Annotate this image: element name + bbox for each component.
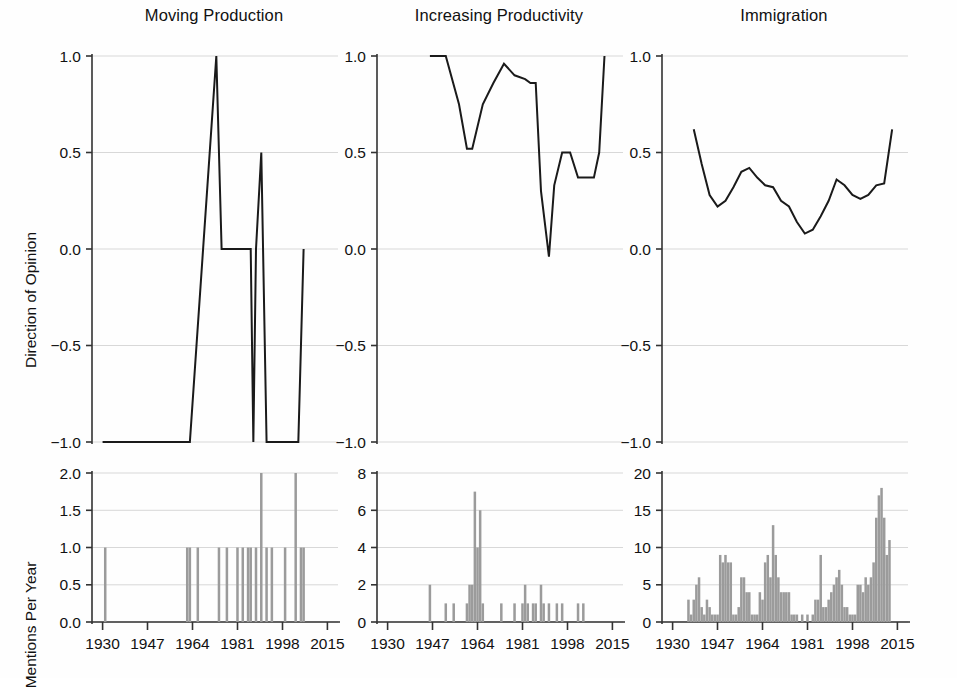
x-tick-label: 1964 (175, 635, 210, 652)
x-tick-label: 1998 (550, 635, 584, 652)
data-line (430, 56, 605, 257)
y-tick-label: 1.0 (629, 48, 651, 65)
bar (819, 555, 822, 622)
bar (474, 492, 477, 622)
y-tick-label: 15 (634, 502, 651, 519)
bar (468, 585, 471, 622)
bar (822, 607, 825, 622)
subplot-top-left: −1.0−0.50.00.51.0 (50, 48, 338, 451)
bar (532, 603, 535, 622)
bar (830, 592, 833, 622)
bar (835, 577, 838, 622)
subplot-top-right: −1.0−0.50.00.51.0 (620, 48, 908, 451)
bar (429, 585, 432, 622)
bar (189, 548, 192, 623)
bar (218, 548, 221, 623)
bar (864, 577, 867, 622)
bar (838, 570, 841, 622)
bar (482, 603, 485, 622)
bar (284, 548, 287, 623)
bar (743, 577, 746, 622)
bar (870, 577, 873, 622)
y-tick-label: 2.0 (59, 465, 81, 482)
bar (767, 555, 770, 622)
bar (242, 548, 245, 623)
bar (796, 615, 799, 622)
y-tick-label: 8 (357, 465, 366, 482)
bar (851, 615, 854, 622)
bar (716, 615, 719, 622)
x-tick-label: 2015 (880, 635, 914, 652)
x-tick-label: 1964 (460, 635, 495, 652)
bar (764, 562, 767, 622)
bar (302, 548, 305, 623)
y-tick-label: 0.0 (59, 241, 81, 258)
bar (104, 548, 107, 623)
bar (706, 600, 709, 622)
bar (854, 615, 857, 622)
bar (186, 548, 189, 623)
bar (880, 488, 883, 622)
bar (703, 615, 706, 622)
bar (466, 603, 469, 622)
data-line (694, 129, 892, 233)
subplot-bottom-left: 0.00.51.01.52.0193019471964198119982015 (59, 465, 344, 653)
bar (772, 525, 775, 622)
x-tick-label: 1964 (745, 635, 780, 652)
bar (774, 555, 777, 622)
x-tick-label: 1998 (265, 635, 299, 652)
y-tick-label: 0 (642, 614, 651, 631)
bar (521, 603, 524, 622)
bar (687, 600, 690, 622)
bar (714, 615, 717, 622)
bar (265, 548, 268, 623)
bar (782, 592, 785, 622)
bar (577, 603, 580, 622)
y-tick-label: −1.0 (335, 434, 366, 451)
bar (759, 592, 762, 622)
bar (548, 603, 551, 622)
bar (801, 615, 804, 622)
x-tick-label: 1930 (370, 635, 405, 652)
bar (294, 473, 297, 622)
bar (542, 603, 545, 622)
bar (452, 603, 455, 622)
x-tick-label: 2015 (310, 635, 344, 652)
y-tick-label: 6 (357, 502, 366, 519)
y-tick-label: 20 (634, 465, 652, 482)
bar (445, 603, 448, 622)
subplot-bottom-right: 05101520193019471964198119982015 (634, 465, 915, 653)
bar (479, 510, 482, 622)
bar (556, 603, 559, 622)
bar (793, 615, 796, 622)
bar (777, 577, 780, 622)
x-tick-label: 1981 (790, 635, 824, 652)
y-tick-label: −0.5 (335, 337, 366, 354)
subplot-bottom-middle: 02468193019471964198119982015 (357, 465, 629, 653)
bar (271, 548, 274, 623)
y-tick-label: 1.0 (59, 48, 81, 65)
y-tick-label: 0.0 (344, 241, 366, 258)
bar (780, 592, 783, 622)
y-tick-label: −0.5 (620, 337, 651, 354)
bar (833, 585, 836, 622)
subplot-top-middle: −1.0−0.50.00.51.0 (335, 48, 623, 451)
y-tick-label: 0.5 (344, 144, 366, 161)
bar (753, 615, 756, 622)
bar (476, 548, 479, 623)
y-tick-label: 0.0 (59, 614, 81, 631)
bar (260, 473, 263, 622)
bar (524, 585, 527, 622)
y-tick-label: 1.5 (59, 502, 81, 519)
y-tick-label: 0.5 (629, 144, 651, 161)
bar (843, 607, 846, 622)
x-tick-label: 2015 (595, 635, 629, 652)
y-tick-label: 4 (357, 539, 366, 556)
y-tick-label: 0 (357, 614, 366, 631)
bar (197, 548, 200, 623)
bar (883, 518, 886, 622)
bar (690, 615, 693, 622)
bar (247, 548, 250, 623)
